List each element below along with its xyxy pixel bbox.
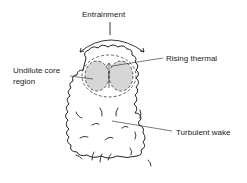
entrainment-label: Entrainment: [82, 10, 125, 19]
core-region-label-line2: region: [13, 77, 35, 86]
rising-thermal-label: Rising thermal: [166, 54, 217, 63]
plume-outline: [66, 45, 146, 158]
turbulent-wake-label: Turbulent wake: [176, 128, 230, 137]
entrainment-arrow: [80, 22, 144, 52]
undilute-core: [82, 55, 136, 97]
thermal-diagram: [0, 0, 247, 183]
core-region-label-line1: Undilute core: [13, 66, 60, 75]
